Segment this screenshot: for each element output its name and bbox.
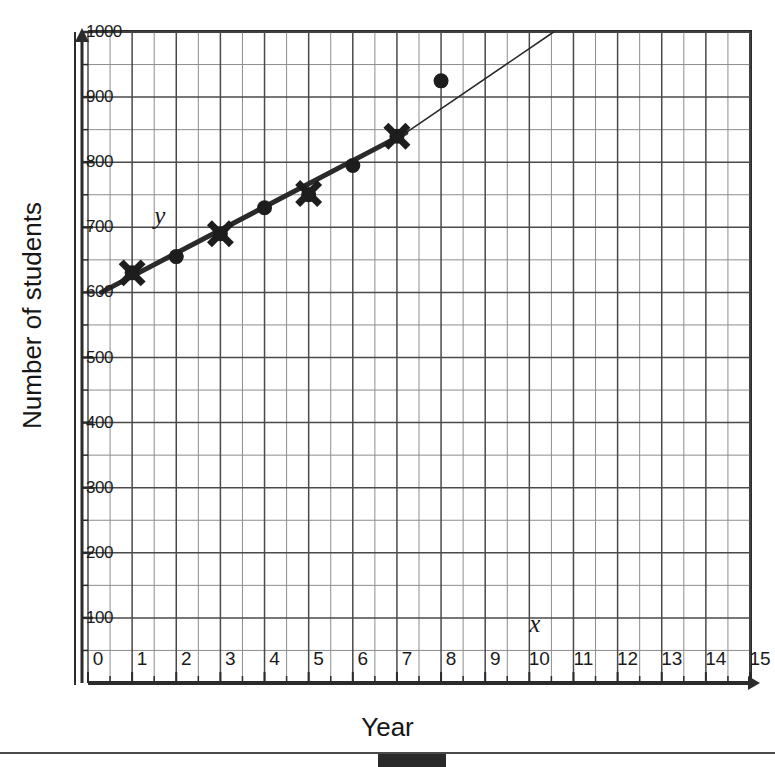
chart-figure: 1002003004005006007008009001000 01234567… (0, 0, 775, 767)
y-tick-label: 100 (86, 608, 113, 628)
footer-marker-block (378, 754, 446, 767)
y-tick-label: 900 (86, 87, 113, 107)
x-tick-label: 13 (661, 648, 682, 670)
variable-label-x: x (529, 610, 540, 638)
y-axis-title: Number of students (17, 166, 48, 466)
x-tick-label: 1 (137, 648, 148, 670)
x-tick-label: 15 (749, 648, 770, 670)
y-tick-label: 400 (86, 413, 113, 433)
x-tick-label: 12 (617, 648, 638, 670)
x-tick-label: 10 (529, 648, 550, 670)
x-tick-label: 9 (490, 648, 501, 670)
x-tick-label: 3 (225, 648, 236, 670)
x-axis-title: Year (0, 712, 775, 743)
y-tick-label: 800 (86, 152, 113, 172)
x-tick-label: 2 (181, 648, 192, 670)
data-markers (121, 73, 448, 284)
x-tick-label: 4 (269, 648, 280, 670)
chart-canvas (0, 0, 775, 767)
axis-lines (75, 28, 760, 690)
y-tick-label: 300 (86, 478, 113, 498)
x-tick-label: 6 (358, 648, 369, 670)
y-tick-label: 700 (86, 217, 113, 237)
y-tick-label: 200 (86, 543, 113, 563)
x-tick-label: 7 (402, 648, 413, 670)
variable-label-y: y (154, 202, 165, 230)
y-tick-label: 1000 (86, 22, 122, 42)
y-tick-label: 600 (86, 282, 113, 302)
y-tick-label: 500 (86, 348, 113, 368)
x-tick-label: 11 (574, 648, 594, 670)
x-tick-label: 14 (705, 648, 726, 670)
x-tick-label: 5 (313, 648, 324, 670)
x-tick-label: 0 (93, 648, 104, 670)
x-tick-label: 8 (446, 648, 457, 670)
